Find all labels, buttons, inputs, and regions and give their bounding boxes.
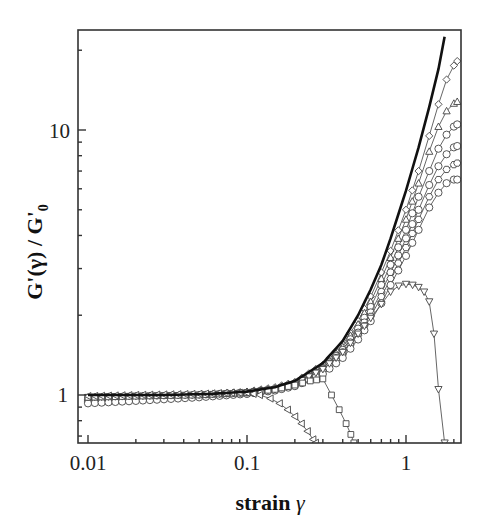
diamond-marker xyxy=(435,101,442,108)
square-marker xyxy=(343,421,349,427)
triangle-up-marker xyxy=(426,148,433,154)
x-tick-label-0.1: 0.1 xyxy=(234,451,260,475)
circle-marker xyxy=(409,239,416,246)
circle-marker xyxy=(435,145,442,152)
circle-marker xyxy=(443,180,450,187)
triangle-down-marker xyxy=(421,289,428,295)
series-master-curve xyxy=(88,37,445,395)
hexagon-marker xyxy=(415,216,422,222)
circle-marker xyxy=(415,206,422,213)
y-tick-label-10: 10 xyxy=(49,119,70,143)
square-marker xyxy=(329,392,335,398)
triangle-up-marker xyxy=(435,123,442,129)
square-marker xyxy=(292,382,298,388)
y-axis-title: G'(γ) / G'0 xyxy=(22,204,51,300)
circle-marker xyxy=(395,267,402,274)
plot-series xyxy=(84,37,460,447)
triangle-down-marker xyxy=(395,283,402,289)
circle-marker xyxy=(435,189,442,196)
square-marker xyxy=(336,407,342,413)
square-marker xyxy=(300,380,306,386)
circle-marker xyxy=(426,181,433,188)
x-tick-label-1: 1 xyxy=(401,451,412,475)
diamond-marker xyxy=(443,76,450,83)
series-line xyxy=(88,379,354,443)
triangle-down-marker xyxy=(426,299,433,305)
square-marker xyxy=(348,432,354,438)
series-circles-a xyxy=(84,121,460,404)
series-line xyxy=(88,284,445,443)
circle-marker xyxy=(387,269,394,276)
gamma-symbol: γ xyxy=(296,490,306,515)
master-curve-line xyxy=(88,37,445,395)
x-axis-title: strain γ xyxy=(235,490,306,515)
diamond-marker xyxy=(426,132,433,139)
hexagon-marker xyxy=(435,176,442,182)
hexagon-marker xyxy=(443,166,450,172)
diamond-marker xyxy=(415,167,422,174)
square-marker xyxy=(314,377,320,383)
triangle-left-marker xyxy=(276,400,282,407)
series-line xyxy=(88,180,457,404)
triangle-down-marker xyxy=(387,289,394,295)
triangle-left-marker xyxy=(304,428,310,435)
circle-marker xyxy=(454,121,461,128)
circle-marker xyxy=(402,252,409,259)
series-triangles-down xyxy=(84,281,448,446)
circle-marker xyxy=(426,204,433,211)
series-line xyxy=(88,146,457,401)
series-circles-b xyxy=(84,142,460,404)
circle-marker xyxy=(443,131,450,138)
chart-canvas: 0.01 0.1 1 1 10 strain γ G'(γ) / G'0 xyxy=(0,0,484,526)
y-axis-subscript: 0 xyxy=(36,204,51,211)
hexagon-marker xyxy=(426,194,433,200)
y-tick-label-1: 1 xyxy=(58,383,69,407)
triangle-left-marker xyxy=(267,395,273,402)
circle-marker xyxy=(415,226,422,233)
circle-marker xyxy=(426,167,433,174)
triangle-down-marker xyxy=(435,387,442,393)
circle-marker xyxy=(435,163,442,170)
triangle-up-marker xyxy=(415,180,422,186)
x-tick-label-0.01: 0.01 xyxy=(70,451,107,475)
square-marker xyxy=(320,376,326,382)
hexagon-marker xyxy=(454,160,461,166)
circle-marker xyxy=(387,281,394,288)
series-line xyxy=(88,102,457,399)
circle-marker xyxy=(454,142,461,149)
triangle-down-marker xyxy=(430,331,437,337)
circle-marker xyxy=(454,176,461,183)
circle-marker xyxy=(443,151,450,158)
square-marker xyxy=(307,378,313,384)
circle-marker xyxy=(415,193,422,200)
circle-marker xyxy=(409,220,416,227)
